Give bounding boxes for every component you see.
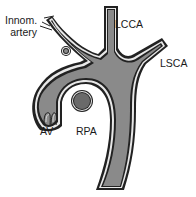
- innominate-label-line2: artery: [5, 26, 37, 38]
- lcca-label: LCCA: [115, 18, 143, 30]
- lsca-label: LSCA: [160, 57, 187, 69]
- rpa-label: RPA: [76, 125, 97, 137]
- innominate-label-line1: Innom.: [5, 14, 37, 26]
- innominate-artery-label: Innom. artery: [5, 14, 37, 38]
- aortic-arch-diagram: Innom. artery LCCA LSCA AV RPA: [0, 0, 196, 197]
- rpa-cross-section: [71, 90, 93, 112]
- small-vessel-cross-section: [61, 46, 71, 56]
- aortic-valve-label: AV: [40, 125, 53, 137]
